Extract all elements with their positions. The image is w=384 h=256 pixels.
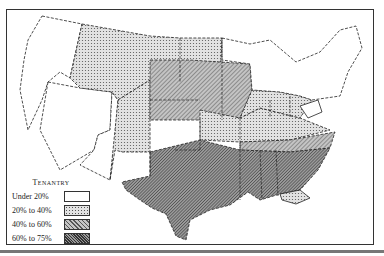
legend-item-60-75: 60% to 75% <box>12 231 108 245</box>
legend-swatch-dense-hatch <box>64 233 90 244</box>
legend-label: 40% to 60% <box>12 220 64 229</box>
legend-item-20-40: 20% to 40% <box>12 203 108 217</box>
legend-swatch-white <box>64 191 90 202</box>
legend-swatch-dotted <box>64 205 90 216</box>
legend-title: Tenantry <box>12 178 90 187</box>
legend-label: Under 20% <box>12 192 64 201</box>
map-legend: Tenantry Under 20% 20% to 40% 40% to 60%… <box>12 178 108 245</box>
legend-label: 20% to 40% <box>12 206 64 215</box>
page-edge-rule <box>0 250 384 253</box>
legend-item-40-60: 40% to 60% <box>12 217 108 231</box>
legend-label: 60% to 75% <box>12 234 64 243</box>
legend-swatch-light-hatch <box>64 219 90 230</box>
legend-item-under-20: Under 20% <box>12 189 108 203</box>
